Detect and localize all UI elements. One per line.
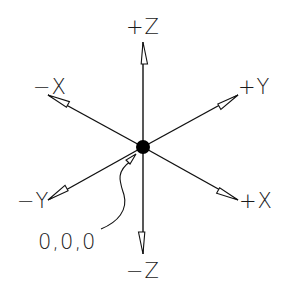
origin-label: 0,0,0	[38, 230, 96, 254]
arrowhead-minus-z	[139, 232, 145, 254]
axis-label-plus-y: +Y	[238, 75, 270, 99]
arrowhead-plus-y	[218, 95, 238, 110]
arrowhead-plus-x	[217, 188, 238, 200]
arrowhead-minus-y	[48, 185, 68, 200]
origin-leader-line	[101, 161, 131, 229]
axes-diagram: +Z −Z −X +X +Y −Y 0,0,0	[0, 0, 283, 293]
axis-label-minus-z: −Z	[126, 259, 160, 283]
axis-label-plus-x: +X	[239, 189, 273, 213]
origin-dot	[136, 140, 150, 154]
arrowhead-plus-z	[141, 42, 147, 64]
axis-label-minus-x: −X	[33, 75, 67, 99]
axis-label-minus-y: −Y	[17, 189, 49, 213]
axis-label-plus-z: +Z	[126, 15, 160, 39]
